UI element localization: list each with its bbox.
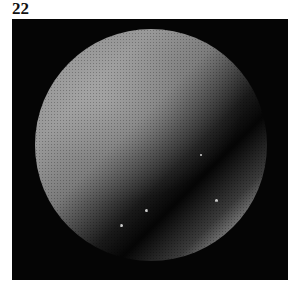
figure-label: 22 [12, 0, 29, 18]
bright-spot [120, 224, 123, 227]
bright-spot [215, 199, 218, 202]
bright-spot [145, 209, 148, 212]
bright-spot [200, 154, 202, 156]
image-frame [12, 19, 288, 280]
planet-disc [35, 29, 267, 261]
